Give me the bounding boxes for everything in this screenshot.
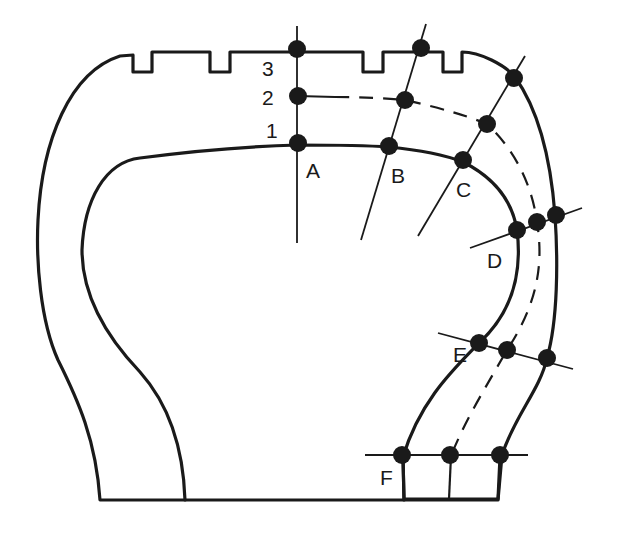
station-label-e: E bbox=[453, 343, 467, 366]
node-a2 bbox=[289, 87, 307, 105]
node-d2 bbox=[528, 213, 546, 231]
node-c3 bbox=[505, 69, 523, 87]
node-f1 bbox=[393, 446, 411, 464]
node-e1 bbox=[470, 334, 488, 352]
nodes bbox=[288, 39, 565, 464]
node-b2 bbox=[396, 91, 414, 109]
node-a3 bbox=[288, 40, 306, 58]
node-b3 bbox=[412, 39, 430, 57]
node-b1 bbox=[380, 137, 398, 155]
node-f2 bbox=[441, 446, 459, 464]
station-label-f: F bbox=[380, 466, 393, 489]
section-line-d bbox=[470, 208, 582, 248]
layer-label-3: 3 bbox=[262, 57, 274, 80]
layer-label-1: 1 bbox=[266, 119, 278, 142]
layer-label-2: 2 bbox=[262, 86, 274, 109]
tire-section-diagram: 3 2 1 A B C D E F bbox=[0, 0, 617, 551]
node-f3 bbox=[491, 446, 509, 464]
layer2-dashed bbox=[335, 97, 539, 456]
node-e2 bbox=[498, 341, 516, 359]
section-line-b bbox=[361, 24, 426, 240]
station-label-a: A bbox=[306, 159, 320, 182]
node-d3 bbox=[547, 206, 565, 224]
node-d1 bbox=[508, 221, 526, 239]
station-label-d: D bbox=[487, 249, 502, 272]
station-label-b: B bbox=[391, 164, 405, 187]
node-c1 bbox=[454, 151, 472, 169]
node-c2 bbox=[478, 115, 496, 133]
node-e3 bbox=[538, 349, 556, 367]
node-a1 bbox=[289, 134, 307, 152]
station-label-c: C bbox=[456, 178, 471, 201]
